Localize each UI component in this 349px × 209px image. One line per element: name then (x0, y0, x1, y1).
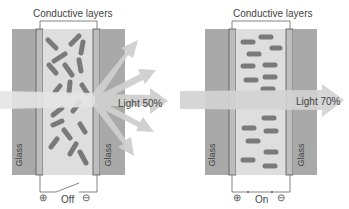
switch-state-label: On (255, 194, 268, 205)
light-percentage-label: Light 70% (296, 96, 340, 107)
circuit-off (40, 175, 97, 192)
incoming-light (0, 91, 95, 109)
bracket (40, 21, 97, 29)
switch-contact (271, 191, 273, 193)
conductive-layers-label: Conductive layers (233, 8, 312, 19)
switch-state-label: Off (61, 194, 74, 205)
conductive-layers-label: Conductive layers (33, 8, 112, 19)
panel-on (180, 21, 344, 193)
minus-terminal-icon: ⊖ (277, 192, 285, 203)
circuit-on (232, 175, 290, 192)
switch-contact (247, 191, 249, 193)
light-percentage-label: Light 50% (118, 98, 162, 109)
glass-label-right: Glass (103, 143, 113, 166)
glass-label-left: Glass (207, 143, 217, 166)
plus-terminal-icon: ⊕ (39, 192, 47, 203)
glass-label-left: Glass (14, 143, 24, 166)
plus-terminal-icon: ⊕ (233, 192, 241, 203)
minus-terminal-icon: ⊖ (82, 192, 90, 203)
bracket (232, 21, 290, 29)
open-switch (56, 183, 79, 192)
glass-label-right: Glass (296, 143, 306, 166)
